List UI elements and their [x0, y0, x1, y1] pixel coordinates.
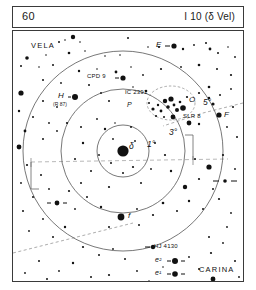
star [96, 68, 98, 70]
star [217, 52, 219, 54]
star [74, 208, 76, 210]
star [110, 162, 112, 164]
dashed-line-upper-right [163, 103, 243, 126]
star [154, 142, 156, 144]
cluster-star [175, 108, 179, 112]
star [208, 97, 210, 99]
star [84, 50, 86, 52]
star [180, 66, 182, 68]
star [234, 260, 236, 262]
ic2391-cluster-boundary [147, 86, 195, 120]
star [24, 272, 26, 274]
star [198, 178, 200, 180]
cluster-star [157, 104, 159, 106]
star [68, 52, 71, 55]
sky-map: VELA CARINA E CPD 9 H (R 87) IC 2391 P O… [12, 30, 244, 282]
star [100, 92, 102, 94]
star [150, 168, 152, 170]
star [96, 118, 98, 120]
star [86, 196, 88, 198]
star [222, 154, 224, 156]
star [108, 226, 110, 228]
star [71, 35, 75, 39]
bracket-upper-right [185, 135, 193, 159]
star [46, 278, 48, 280]
star [26, 164, 28, 166]
cluster-star [168, 96, 173, 101]
star [176, 210, 178, 212]
star [112, 248, 114, 250]
star [208, 236, 210, 238]
star [55, 201, 60, 206]
star-delta-velorum [117, 145, 128, 156]
star [222, 242, 224, 244]
star [183, 185, 187, 189]
star [80, 182, 82, 184]
star [58, 270, 60, 272]
star [58, 41, 60, 43]
star [234, 168, 236, 170]
star [52, 64, 54, 66]
star [188, 200, 190, 202]
star [60, 82, 62, 84]
star [38, 66, 40, 68]
star [90, 276, 92, 278]
star-E [171, 43, 176, 48]
star [78, 70, 80, 72]
star [164, 154, 166, 156]
cluster-star [173, 104, 176, 107]
star-HJ4130 [151, 245, 155, 249]
star [148, 280, 150, 281]
star [205, 42, 207, 44]
star [88, 84, 90, 86]
star [114, 122, 116, 124]
star [127, 37, 129, 39]
star [234, 56, 236, 58]
star [218, 198, 220, 200]
star [210, 252, 212, 254]
cluster-star [148, 102, 150, 104]
star [134, 140, 136, 142]
star [132, 86, 134, 88]
star [108, 274, 110, 276]
star [17, 145, 22, 150]
star [22, 210, 24, 212]
cluster-star [160, 110, 163, 113]
page-number: 60 [22, 10, 35, 22]
star [20, 65, 22, 67]
star [211, 102, 214, 105]
star-f [118, 214, 125, 221]
star [48, 122, 50, 124]
sky-map-canvas [13, 31, 243, 281]
star [147, 46, 149, 48]
star [112, 138, 114, 140]
star [223, 179, 227, 183]
star [80, 126, 82, 128]
star [40, 174, 42, 176]
star [42, 79, 44, 81]
star [42, 100, 44, 102]
star [162, 266, 164, 268]
star [124, 258, 126, 260]
star [152, 214, 154, 216]
star [132, 166, 134, 168]
star [104, 128, 106, 130]
star-chart-page: 60 I 10 (δ Vel) [0, 0, 256, 290]
star [160, 68, 162, 70]
star [211, 277, 216, 281]
star-field [17, 35, 240, 281]
star-e1 [172, 271, 178, 277]
cluster-star [151, 107, 154, 110]
star [42, 218, 44, 220]
star [202, 208, 204, 210]
star [162, 202, 165, 205]
star [66, 122, 68, 124]
star [209, 48, 212, 51]
star [42, 138, 44, 140]
star [198, 123, 200, 125]
star [68, 190, 70, 192]
star [232, 106, 234, 108]
star [64, 226, 66, 228]
star [32, 116, 34, 118]
cluster-star [163, 116, 165, 118]
